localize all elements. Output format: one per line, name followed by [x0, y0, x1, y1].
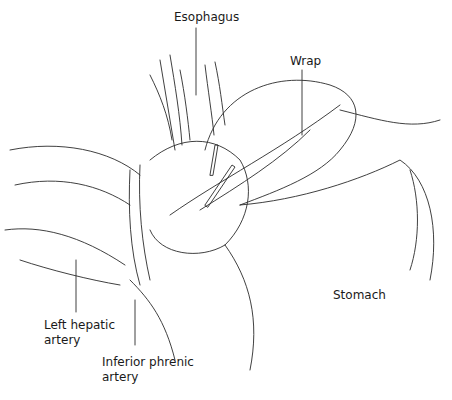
label-esophagus: Esophagus: [174, 10, 239, 25]
label-stomach: Stomach: [333, 288, 386, 303]
label-left-hepatic-line2: artery: [44, 333, 115, 348]
label-wrap: Wrap: [290, 54, 321, 69]
illustration: Esophagus Wrap Stomach Left hepatic arte…: [0, 0, 452, 400]
label-left-hepatic-line1: Left hepatic: [44, 318, 115, 333]
fundoplication-wrap: [150, 80, 356, 253]
label-inferior-phrenic-artery: Inferior phrenic artery: [102, 355, 194, 385]
label-left-hepatic-artery: Left hepatic artery: [44, 318, 115, 348]
esophagus-fibers: [150, 55, 225, 150]
label-inferior-phrenic-line1: Inferior phrenic: [102, 355, 194, 370]
label-inferior-phrenic-line2: artery: [102, 370, 194, 385]
stomach: [130, 110, 440, 370]
liver-left-lobe: [5, 146, 150, 285]
